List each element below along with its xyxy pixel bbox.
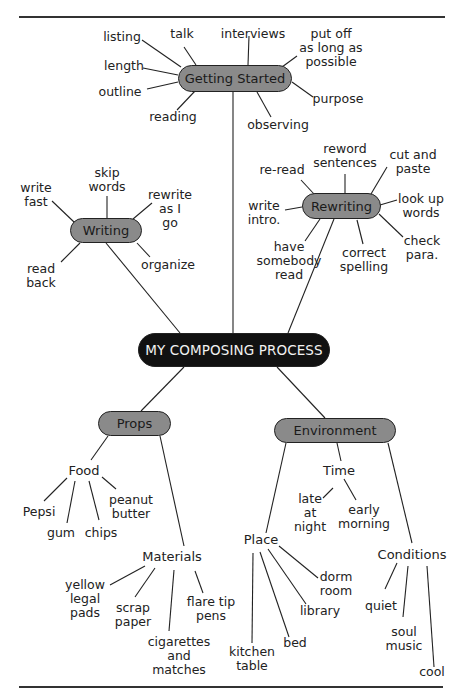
node-getting-started[interactable]: Getting Started [178,65,292,92]
leaf-early-morning: early morning [338,503,390,531]
leaf-write-fast: write fast [20,181,51,209]
leaf-soul-music: soul music [386,625,423,653]
leaf-yellow-legal-pads: yellow legal pads [65,578,105,620]
subnode-materials: Materials [142,549,202,564]
leaf-correct-spelling: correct spelling [340,246,388,274]
subnode-time: Time [323,463,355,478]
leaf-dorm-room: dorm room [320,570,353,598]
leaf-length: length [104,59,144,73]
leaf-re-read: re-read [259,163,304,177]
leaf-quiet: quiet [365,599,397,613]
subnode-food: Food [68,463,99,478]
leaf-read-back: read back [26,262,56,290]
leaf-peanut-butter: peanut butter [109,493,153,521]
leaf-chips: chips [85,526,118,540]
leaf-cool: cool [419,665,445,679]
leaf-check-para: check para. [404,234,441,262]
leaf-scrap-paper: scrap paper [115,601,151,629]
node-writing[interactable]: Writing [70,218,142,243]
leaf-purpose: purpose [313,92,364,106]
leaf-cut-and-paste: cut and paste [389,148,436,176]
leaf-reword-sentences: reword sentences [313,142,377,170]
leaf-outline: outline [98,85,141,99]
subnode-conditions: Conditions [378,547,447,562]
leaf-gum: gum [47,526,75,540]
leaf-pepsi: Pepsi [23,505,56,519]
leaf-flare-tip-pens: flare tip pens [187,595,235,623]
leaf-skip-words: skip words [88,166,125,194]
leaf-bed: bed [283,636,307,650]
node-rewriting[interactable]: Rewriting [302,193,381,219]
subnode-place: Place [244,532,279,547]
leaf-reading: reading [149,110,196,124]
node-environment[interactable]: Environment [274,418,396,443]
leaf-have-somebody-read: have somebody read [257,240,322,282]
leaf-cigarettes-and-matches: cigarettes and matches [148,635,211,677]
leaf-look-up-words: look up words [398,192,444,220]
leaf-listing: listing [103,30,141,44]
leaf-organize: organize [141,258,195,272]
leaf-late-at-night: late at night [294,492,326,534]
leaf-put-off: put off as long as possible [299,27,362,69]
leaf-interviews: interviews [221,27,285,41]
root-node[interactable]: MY COMPOSING PROCESS [138,333,330,367]
leaf-talk: talk [170,27,193,41]
leaf-library: library [300,604,340,618]
leaf-kitchen-table: kitchen table [229,645,275,673]
leaf-observing: observing [247,118,309,132]
node-props[interactable]: Props [98,411,171,436]
leaf-rewrite-as-i-go: rewrite as I go [148,188,192,230]
leaf-write-intro: write intro. [248,199,281,227]
